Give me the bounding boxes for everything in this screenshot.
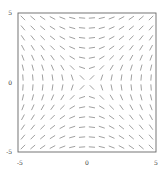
slope-segment [100, 65, 104, 69]
slope-segment [52, 84, 53, 90]
slope-segment [99, 17, 105, 18]
slope-segment [119, 115, 123, 119]
slope-segment [139, 26, 143, 30]
slope-segment [60, 27, 66, 30]
slope-segment [140, 105, 143, 111]
slope-segment [50, 16, 55, 19]
slope-segment [150, 104, 152, 110]
slope-segment [60, 115, 65, 119]
slope-segment [130, 65, 132, 71]
slope-segment [80, 75, 84, 79]
slope-segment [149, 35, 153, 40]
slope-segment [109, 105, 113, 109]
slope-segment [50, 115, 54, 119]
slope-segment [50, 135, 55, 138]
slope-segment [89, 137, 95, 138]
slope-segment [80, 85, 84, 89]
slope-segment [140, 45, 143, 50]
slope-segment [61, 65, 64, 70]
slope-segment [40, 36, 44, 40]
slope-segment [50, 146, 55, 149]
slope-segment [130, 94, 132, 100]
slope-segment [99, 47, 105, 49]
x-tick-label-left: -5 [17, 159, 23, 166]
slope-segment [41, 45, 45, 50]
slope-segment [89, 37, 95, 38]
slope-segment [119, 26, 124, 29]
slope-segment [109, 46, 114, 50]
slope-segment [60, 55, 64, 59]
slope-segment [139, 125, 143, 130]
slope-segment [21, 145, 25, 149]
slope-segment [50, 36, 55, 40]
slope-segment [41, 105, 44, 110]
slope-segment [51, 95, 53, 101]
slope-segment [79, 107, 85, 108]
slope-segment [99, 106, 104, 109]
slope-segment [140, 65, 142, 71]
slope-segments [21, 16, 154, 149]
slope-segment [62, 75, 63, 81]
slope-segment [121, 74, 122, 80]
slope-segment [69, 116, 75, 118]
slope-segment [140, 115, 143, 120]
slope-segment [32, 65, 34, 71]
slope-segment [139, 145, 144, 149]
slope-segment [22, 55, 24, 61]
slope-segment [139, 135, 143, 139]
slope-segment [150, 55, 152, 61]
slope-segment [100, 95, 104, 99]
slope-segment [59, 17, 65, 19]
slope-segment [110, 95, 113, 100]
slope-segment [52, 74, 53, 80]
x-tick-label-middle: 0 [85, 159, 89, 166]
slope-segment [60, 136, 66, 139]
slope-segment [119, 146, 124, 149]
slope-segment [89, 67, 95, 69]
slope-segment [62, 84, 63, 90]
slope-segment [31, 125, 35, 130]
slope-segment [101, 85, 103, 91]
slope-segment [71, 85, 73, 91]
slope-segment [33, 74, 34, 80]
slope-segment [33, 84, 34, 90]
slope-segment [150, 45, 153, 50]
plot-frame [18, 13, 156, 152]
slope-segment [79, 67, 85, 69]
slope-segment [109, 27, 115, 30]
slope-segment [40, 135, 45, 139]
slope-segment [69, 136, 75, 138]
slope-segment [149, 16, 153, 20]
slope-segment [99, 27, 105, 29]
slope-segment [79, 37, 85, 38]
slope-segment [120, 105, 124, 110]
slope-segment [89, 117, 95, 118]
slope-segment [69, 126, 75, 128]
slope-segment [42, 94, 44, 100]
slope-segment [109, 126, 114, 129]
slope-segment [69, 47, 75, 49]
slope-segment [40, 26, 45, 30]
slope-segment [150, 115, 153, 120]
slope-segment [129, 36, 133, 40]
slope-segment [70, 95, 74, 99]
slope-segment [119, 125, 124, 129]
y-tick-label-top: 5 [8, 9, 12, 16]
slope-segment [89, 57, 95, 58]
slope-segment [31, 26, 35, 30]
slope-segment [150, 94, 151, 100]
slope-segment [129, 45, 133, 50]
slope-segment [140, 55, 143, 61]
slope-segment [22, 65, 23, 71]
slope-segment [89, 47, 95, 48]
slope-segment [42, 84, 43, 90]
slope-segment [131, 74, 132, 80]
slope-segment [61, 95, 64, 100]
slope-segment [109, 36, 114, 39]
slope-segment [51, 105, 55, 110]
slope-segment [79, 117, 85, 118]
slope-segment [99, 116, 105, 118]
slope-segment [119, 46, 123, 50]
slope-segment [79, 47, 85, 48]
slope-segment [50, 26, 55, 29]
